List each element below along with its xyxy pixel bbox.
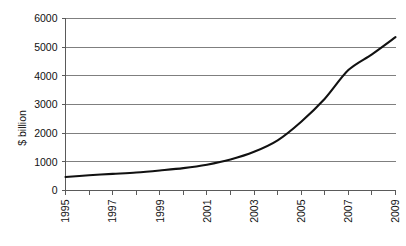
x-tick-label-1997: 1997 bbox=[106, 199, 118, 223]
x-tick-label-1995: 1995 bbox=[59, 199, 71, 223]
y-tick-label-3000: 3000 bbox=[34, 98, 58, 110]
y-tick-label-0: 0 bbox=[52, 184, 58, 196]
y-tick-label-1000: 1000 bbox=[34, 156, 58, 168]
x-tick-label-2007: 2007 bbox=[342, 199, 354, 223]
y-tick-label-5000: 5000 bbox=[34, 41, 58, 53]
x-tick-label-2009: 2009 bbox=[389, 199, 401, 223]
y-axis-title: $ billion bbox=[16, 110, 28, 146]
y-tick-label-6000: 6000 bbox=[34, 12, 58, 24]
x-tick-label-2003: 2003 bbox=[248, 199, 260, 223]
line-chart: 0100020003000400050006000 19951997199920… bbox=[0, 0, 406, 246]
y-tick-label-2000: 2000 bbox=[34, 127, 58, 139]
y-tick-label-4000: 4000 bbox=[34, 70, 58, 82]
x-tick-label-2005: 2005 bbox=[295, 199, 307, 223]
chart-canvas: 0100020003000400050006000 19951997199920… bbox=[0, 0, 406, 246]
x-tick-label-2001: 2001 bbox=[201, 199, 213, 223]
x-tick-label-1999: 1999 bbox=[154, 199, 166, 223]
